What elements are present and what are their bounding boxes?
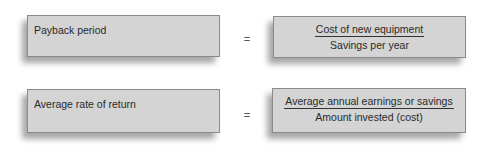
- average-rate-fraction: Average annual earnings or savings Amoun…: [273, 94, 465, 124]
- equals-sign-2: =: [237, 109, 257, 121]
- average-rate-denominator: Amount invested (cost): [315, 109, 422, 124]
- average-rate-of-return-label: Average rate of return: [34, 98, 136, 110]
- payback-period-label: Payback period: [34, 24, 106, 36]
- payback-numerator: Cost of new equipment: [315, 22, 424, 37]
- average-rate-numerator: Average annual earnings or savings: [284, 94, 453, 109]
- payback-period-label-box: Payback period: [27, 15, 220, 57]
- payback-denominator: Savings per year: [330, 37, 409, 52]
- average-rate-of-return-formula-box: Average annual earnings or savings Amoun…: [272, 88, 466, 133]
- payback-period-fraction: Cost of new equipment Savings per year: [274, 22, 465, 52]
- average-rate-of-return-label-box: Average rate of return: [27, 89, 220, 133]
- equals-sign-1: =: [237, 33, 257, 45]
- payback-period-formula-box: Cost of new equipment Savings per year: [273, 16, 466, 58]
